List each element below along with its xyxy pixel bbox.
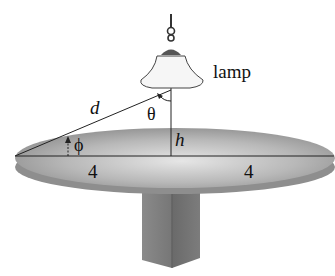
- table-column: [142, 188, 200, 268]
- lamp-table-diagram: lamp d θ h ϕ 4 4: [0, 0, 335, 276]
- distance-label: d: [90, 97, 100, 118]
- theta-label: θ: [147, 104, 156, 124]
- phi-label: ϕ: [74, 135, 83, 155]
- theta-arrow-icon: [157, 93, 171, 101]
- height-label: h: [175, 129, 185, 150]
- lamp-label: lamp: [213, 61, 251, 82]
- lamp-icon: [141, 14, 203, 88]
- radius-right-label: 4: [244, 161, 254, 182]
- radius-left-label: 4: [88, 161, 98, 182]
